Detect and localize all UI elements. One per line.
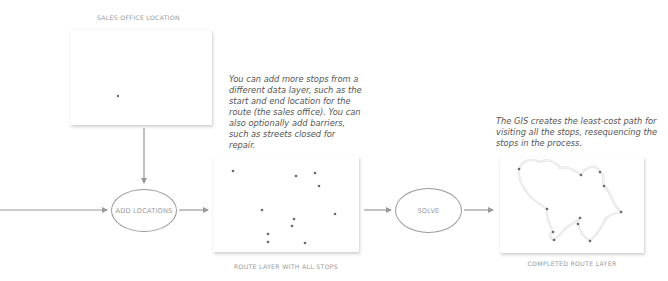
stop-point xyxy=(304,242,307,245)
stop-point xyxy=(546,208,549,211)
route-layer-stops xyxy=(232,170,337,245)
diagram-connectors xyxy=(0,0,668,281)
stop-point xyxy=(117,95,119,97)
stop-point xyxy=(577,223,580,226)
stop-point xyxy=(580,174,583,177)
stop-point xyxy=(293,218,296,221)
stop-point xyxy=(291,225,294,228)
stop-point xyxy=(553,239,556,242)
stop-point xyxy=(295,175,298,178)
sales-office-stops xyxy=(117,95,119,97)
stop-point xyxy=(261,209,264,212)
add-locations-node: ADD LOCATIONS xyxy=(111,189,177,232)
stop-point xyxy=(518,168,521,171)
stop-point xyxy=(579,217,582,220)
stop-point xyxy=(620,211,623,214)
stop-point xyxy=(318,185,321,188)
solve-node: SOLVE xyxy=(395,188,462,233)
stop-point xyxy=(267,233,270,236)
stop-point xyxy=(603,185,606,188)
stop-point xyxy=(599,171,602,174)
add-locations-label: ADD LOCATIONS xyxy=(116,207,173,215)
completed-route-stops xyxy=(518,168,623,243)
stop-point xyxy=(314,172,317,175)
solve-label: SOLVE xyxy=(417,207,439,215)
stop-point xyxy=(267,241,270,244)
stop-point xyxy=(232,170,235,173)
stop-point xyxy=(334,213,337,216)
stop-point xyxy=(589,240,592,243)
stop-point xyxy=(552,231,555,234)
